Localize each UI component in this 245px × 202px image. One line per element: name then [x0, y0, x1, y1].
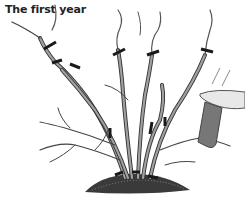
- pruning-shears: [198, 68, 245, 148]
- shrub-stems: [12, 5, 230, 178]
- shrub-illustration: [0, 0, 245, 202]
